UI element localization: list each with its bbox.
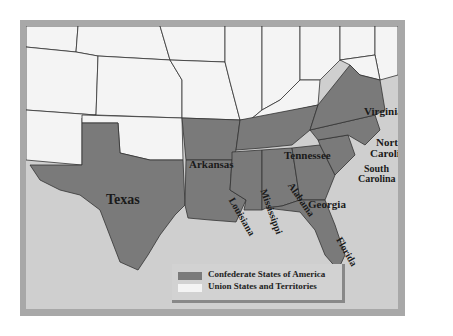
legend-label-union: Union States and Territories [208, 281, 317, 291]
state-kansas [96, 56, 182, 118]
label-tennessee: Tennessee [284, 150, 331, 161]
legend-swatch-confederate [178, 272, 202, 280]
state-arkansas [182, 118, 240, 160]
label-georgia: Georgia [308, 199, 346, 210]
territory-colorado [26, 47, 98, 115]
label-north-carolina-2: Carolina [370, 148, 398, 159]
label-texas: Texas [106, 194, 140, 205]
state-iowa-region [160, 26, 225, 62]
state-ohio [300, 26, 340, 80]
legend-label-confederate: Confederate States of America [208, 269, 325, 279]
map-legend: Confederate States of America Union Stat… [172, 264, 345, 303]
label-arkansas: Arkansas [189, 159, 234, 170]
label-virginia: Virginia [364, 106, 398, 117]
label-south-carolina-2: Carolina [358, 173, 396, 184]
state-pennsylvania [340, 26, 375, 60]
legend-swatch-union [178, 284, 202, 292]
